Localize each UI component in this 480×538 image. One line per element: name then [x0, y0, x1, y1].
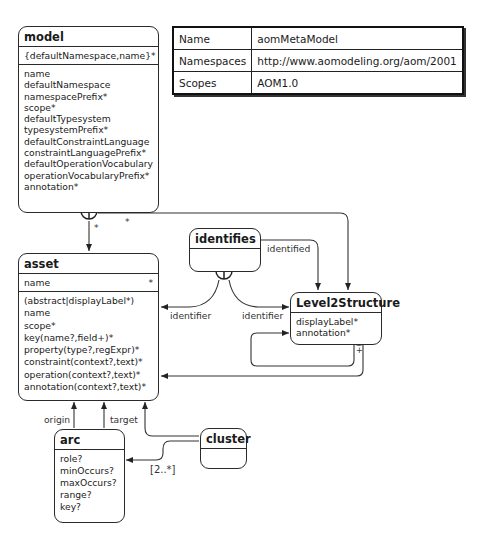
entity-key: name: [24, 276, 50, 289]
attribute: constraint(context?,text)*: [24, 356, 153, 368]
entity-cluster[interactable]: cluster: [200, 428, 247, 469]
entity-attributes: displayLabel* annotation*: [291, 313, 381, 342]
attribute: (abstract|displayLabel*): [24, 295, 153, 307]
entity-level2structure[interactable]: Level2Structure displayLabel* annotation…: [290, 292, 382, 345]
attribute: scope*: [24, 102, 153, 113]
attribute: defaultTypesystem: [24, 113, 153, 124]
entity-asset[interactable]: asset name * (abstract|displayLabel*) na…: [18, 253, 159, 401]
entity-key: {defaultNamespace,name}: [24, 49, 151, 62]
entity-attributes: role? minOccurs? maxOccurs? range? key?: [55, 450, 124, 516]
attribute: operation(context?,text)*: [24, 369, 153, 381]
attribute: annotation*: [296, 327, 376, 338]
info-row-scopes: Scopes AOM1.0: [173, 72, 463, 95]
model-asset-cardinality: *: [94, 222, 99, 233]
info-key: Namespaces: [173, 50, 252, 72]
attribute: typesystemPrefix*: [24, 124, 153, 135]
entity-attributes: name defaultNamespace namespacePrefix* s…: [19, 65, 158, 195]
attribute: defaultConstraintLanguage: [24, 136, 153, 147]
cluster-arc-cardinality: [2..*]: [150, 464, 176, 475]
attribute: namespacePrefix*: [24, 91, 153, 102]
entity-title: model: [19, 27, 158, 47]
entity-title: asset: [19, 254, 158, 274]
attribute: annotation(context?,text)*: [24, 381, 153, 393]
entity-identifies[interactable]: identifies: [189, 228, 261, 272]
origin-label: origin: [44, 414, 70, 425]
info-value: aomMetaModel: [252, 27, 463, 50]
attribute: property(type?,regExpr)*: [24, 344, 153, 356]
entity-key-row: {defaultNamespace,name} *: [19, 47, 158, 65]
attribute: name: [24, 307, 153, 319]
entity-model[interactable]: model {defaultNamespace,name} * name def…: [18, 26, 159, 213]
attribute: defaultNamespace: [24, 79, 153, 90]
entity-title: cluster: [201, 429, 246, 449]
model-level2-cardinality: *: [125, 216, 130, 227]
identifier-right-label: identifier: [242, 310, 283, 321]
attribute: minOccurs?: [60, 465, 119, 477]
level2-loop-cardinality: +: [356, 346, 363, 355]
identified-label: identified: [267, 243, 310, 254]
key-cardinality: *: [148, 276, 153, 289]
attribute: name: [24, 68, 153, 79]
entity-title: Level2Structure: [291, 293, 381, 313]
attribute: defaultOperationVocabulary: [24, 158, 153, 169]
attribute: maxOccurs?: [60, 477, 119, 489]
attribute: key(name?,field+)*: [24, 332, 153, 344]
metamodel-info-table: Name aomMetaModel Namespaces http://www.…: [172, 26, 464, 95]
info-key: Scopes: [173, 72, 252, 95]
key-cardinality: *: [151, 49, 156, 62]
info-row-namespaces: Namespaces http://www.aomodeling.org/aom…: [173, 50, 463, 72]
target-label: target: [110, 414, 138, 425]
info-value: AOM1.0: [252, 72, 463, 95]
attribute: displayLabel*: [296, 316, 376, 327]
attribute: range?: [60, 489, 119, 501]
info-value: http://www.aomodeling.org/aom/2001: [252, 50, 463, 72]
attribute: role?: [60, 453, 119, 465]
attribute: key?: [60, 501, 119, 513]
info-row-name: Name aomMetaModel: [173, 27, 463, 50]
attribute: scope*: [24, 320, 153, 332]
info-key: Name: [173, 27, 252, 50]
attribute: annotation*: [24, 181, 153, 192]
entity-attributes: (abstract|displayLabel*) name scope* key…: [19, 292, 158, 396]
entity-title: identifies: [190, 229, 260, 249]
attribute: constraintLanguagePrefix*: [24, 147, 153, 158]
attribute: operationVocabularyPrefix*: [24, 170, 153, 181]
entity-key-row: name *: [19, 274, 158, 292]
identifier-left-label: identifier: [170, 310, 211, 321]
entity-title: arc: [55, 430, 124, 450]
entity-arc[interactable]: arc role? minOccurs? maxOccurs? range? k…: [54, 429, 125, 523]
